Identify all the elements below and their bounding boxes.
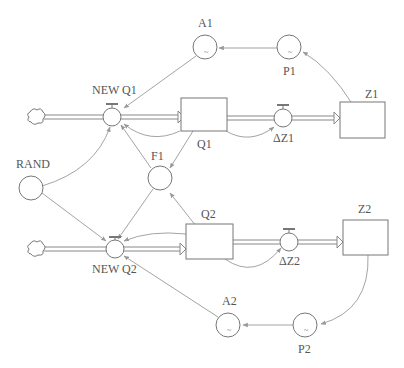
graph-mark-icon: ~ [288, 48, 293, 57]
link-q2-f1 [170, 193, 196, 226]
converter-p1[interactable]: ~ P1 [277, 35, 301, 78]
converter-a2[interactable]: ~ A2 [216, 294, 240, 337]
flow-dz2-label: ΔZ2 [279, 254, 300, 268]
stock-z2[interactable]: Z2 [343, 202, 388, 255]
link-f1-newq2 [118, 189, 153, 239]
flow-newq2[interactable]: NEW Q2 [92, 237, 137, 276]
stock-z2-label: Z2 [358, 202, 371, 216]
converter-p2[interactable]: ~ P2 [293, 313, 317, 356]
link-q2-newq2 [124, 233, 186, 241]
graph-mark-icon: ~ [204, 48, 209, 57]
converter-p1-label: P1 [283, 64, 296, 78]
converter-rand-label: RAND [16, 157, 50, 171]
link-a2-newq2 [124, 256, 218, 317]
stock-z1-label: Z1 [365, 87, 378, 101]
stock-flow-diagram: Q1 Z1 Q2 Z2 NEW Q1 ΔZ1 NEW Q2 ΔZ2 [0, 0, 404, 368]
converter-a2-label: A2 [222, 294, 237, 308]
link-q1-f1 [170, 131, 193, 168]
converter-p2-label: P2 [298, 342, 311, 356]
flow-dz1[interactable]: ΔZ1 [273, 105, 294, 145]
graph-mark-icon: ~ [304, 326, 309, 335]
graph-mark-icon: ~ [227, 326, 232, 335]
flow-newq1[interactable]: NEW Q1 [92, 83, 137, 126]
cloud-source-icon-q1 [28, 109, 45, 124]
converter-a1-label: A1 [198, 16, 213, 30]
link-z1-p1 [303, 52, 353, 105]
link-q1-newq1 [124, 124, 180, 137]
stock-q1[interactable]: Q1 [181, 98, 227, 151]
flow-dz1-label: ΔZ1 [273, 131, 294, 145]
flow-dz2[interactable]: ΔZ2 [279, 229, 300, 268]
cloud-source-icon-q2 [28, 241, 45, 256]
link-rand-newq1 [42, 127, 110, 186]
converter-rand[interactable]: RAND [16, 157, 50, 200]
flow-newq1-label: NEW Q1 [92, 83, 137, 97]
stock-q2[interactable]: Q2 [186, 207, 233, 259]
converter-f1-label: F1 [151, 149, 164, 163]
link-rand-newq2 [42, 193, 106, 241]
flow-newq2-label: NEW Q2 [92, 262, 137, 276]
converter-f1[interactable]: F1 [148, 149, 172, 190]
stock-q2-label: Q2 [201, 207, 216, 221]
link-q1-dz1 [226, 127, 274, 137]
stock-q1-label: Q1 [197, 137, 212, 151]
link-z2-p2 [321, 255, 368, 324]
converter-a1[interactable]: ~ A1 [193, 16, 217, 59]
